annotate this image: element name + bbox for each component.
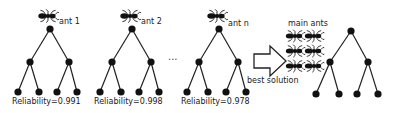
reliability-label-2: Reliability=0.998 <box>94 98 163 106</box>
leaf-node <box>374 90 381 97</box>
ant-icon <box>286 45 306 58</box>
inner-node <box>147 58 154 65</box>
inner-node <box>26 58 33 65</box>
leaf-node <box>312 90 319 97</box>
leaf-node <box>73 88 80 95</box>
main-ants-group <box>286 30 325 73</box>
leaf-node <box>135 88 142 95</box>
inner-node <box>108 58 115 65</box>
ant-icon <box>305 30 325 43</box>
ant-icon <box>286 30 306 43</box>
leaf-node <box>353 90 360 97</box>
ant-icon <box>305 45 325 58</box>
leaf-node <box>96 88 103 95</box>
block-arrow-right-icon <box>254 46 286 76</box>
ant-n-label: ant n <box>228 20 249 28</box>
ellipsis: ... <box>168 52 178 62</box>
best-solution-label: best solution <box>247 77 299 85</box>
leaf-node <box>335 90 342 97</box>
ant-icon <box>286 60 306 73</box>
leaf-node <box>242 88 249 95</box>
leaf-node <box>155 88 162 95</box>
leaf-node <box>53 88 60 95</box>
reliability-label-n: Reliability=0.978 <box>181 98 250 106</box>
ant-1-label: ant 1 <box>59 18 80 26</box>
tree-nodes <box>14 25 80 95</box>
ant-icon <box>38 9 59 22</box>
ant-icon <box>120 9 141 22</box>
inner-node <box>65 58 72 65</box>
root-node <box>347 27 354 34</box>
inner-node <box>195 58 202 65</box>
ant-icon <box>305 60 325 73</box>
root-node <box>128 25 135 32</box>
main-ants-label: main ants <box>288 20 328 28</box>
leaf-node <box>204 88 211 95</box>
root-node <box>46 25 53 32</box>
ant-icon <box>207 9 228 22</box>
leaf-node <box>183 88 190 95</box>
leaf-node <box>222 88 229 95</box>
reliability-label-1: Reliability=0.991 <box>12 98 81 106</box>
root-node <box>215 25 222 32</box>
inner-node <box>326 58 333 65</box>
inner-node <box>234 58 241 65</box>
leaf-node <box>117 88 124 95</box>
inner-node <box>364 58 371 65</box>
leaf-node <box>35 88 42 95</box>
ant-2-label: ant 2 <box>141 18 162 26</box>
leaf-node <box>14 88 21 95</box>
